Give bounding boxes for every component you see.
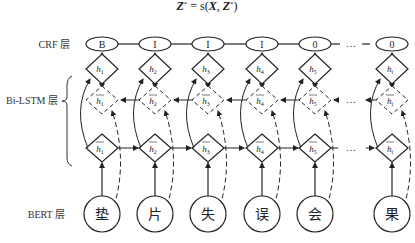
crf-tag: 0 <box>313 39 318 50</box>
column-i: 0 hi hi hi 果 <box>370 37 410 232</box>
crf-tag: 0 <box>390 39 395 50</box>
crf-tag: I <box>153 39 156 50</box>
crf-tag: B <box>99 39 106 50</box>
bert-layer-label: BERT 层 <box>28 209 65 220</box>
column-5: 0 h5 h5 h5 会 <box>293 37 333 232</box>
bert-bilstm-crf-diagram: Z* = s(X, Z*) CRF 层 Bi-LSTM 层 BERT 层 … …… <box>0 0 415 243</box>
backward-h-node <box>376 86 408 114</box>
column-3: I h3 h3 h3 失 <box>186 37 226 232</box>
backward-h-node <box>246 86 278 114</box>
column-4: I h4 h4 h4 误 <box>240 37 280 232</box>
formula: Z* = s(X, Z*) <box>175 0 237 13</box>
bilstm-brace-icon <box>62 76 72 166</box>
token-char: 片 <box>148 206 162 222</box>
crf-tag: I <box>260 39 263 50</box>
backward-h-node <box>86 86 118 114</box>
forward-h-node <box>299 134 331 162</box>
column-2: I h2 h2 h2 片 <box>133 37 173 232</box>
bilstm-layer-label: Bi-LSTM 层 <box>6 95 58 106</box>
crf-layer-label: CRF 层 <box>39 39 70 50</box>
backward-h-node <box>139 86 171 114</box>
token-char: 误 <box>255 206 269 222</box>
backward-h-node <box>299 86 331 114</box>
forward-h-node <box>376 134 408 162</box>
token-char: 会 <box>308 206 322 222</box>
forward-h-node <box>192 134 224 162</box>
crf-tag: I <box>206 39 209 50</box>
column-1: B h1 h1 h1 垫 <box>80 37 120 232</box>
token-char: 失 <box>201 206 215 222</box>
backward-ellipsis: … <box>346 94 356 105</box>
forward-h-node <box>86 134 118 162</box>
token-char: 垫 <box>95 206 109 222</box>
forward-h-node <box>246 134 278 162</box>
forward-ellipsis: … <box>346 142 356 153</box>
backward-h-node <box>192 86 224 114</box>
crf-ellipsis: … <box>346 38 356 49</box>
token-char: 果 <box>385 206 399 222</box>
forward-h-node <box>139 134 171 162</box>
